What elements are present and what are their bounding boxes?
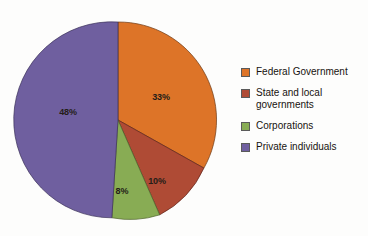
pie-slice-label-private-individuals: 48% <box>59 107 77 117</box>
legend-item-label: Private individuals <box>256 141 337 153</box>
legend-item-state-and-local-governments[interactable]: State and local governments <box>241 87 366 111</box>
legend-swatch-icon <box>241 89 250 98</box>
legend-swatch-icon <box>241 68 250 77</box>
legend-item-private-individuals[interactable]: Private individuals <box>241 141 366 153</box>
pie-slice-private-individuals[interactable] <box>14 22 118 218</box>
pie-slice-label-federal-government: 33% <box>152 92 170 102</box>
legend-item-federal-government[interactable]: Federal Government <box>241 66 366 78</box>
legend-swatch-icon <box>241 143 250 152</box>
legend-swatch-icon <box>241 122 250 131</box>
legend-item-corporations[interactable]: Corporations <box>241 120 366 132</box>
legend-item-label: State and local governments <box>256 87 322 111</box>
pie-slice-label-state-and-local-governments: 10% <box>148 176 166 186</box>
pie-slice-label-corporations: 8% <box>116 186 129 196</box>
legend-item-label: Corporations <box>256 120 313 132</box>
pie-chart-figure: 33% 10% 8% 48% Federal Government State … <box>0 0 368 236</box>
chart-legend: Federal Government State and local gover… <box>241 66 366 162</box>
legend-item-label: Federal Government <box>256 66 348 78</box>
